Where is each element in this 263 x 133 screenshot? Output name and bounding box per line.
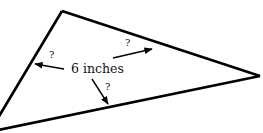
- arrow-to-top-side: [113, 49, 152, 58]
- arrow-to-left-side: [35, 64, 64, 69]
- triangle-diagram: ? ? ? 6 inches: [0, 0, 263, 133]
- unknown-mark-top: ?: [125, 37, 130, 48]
- side-length-label: 6 inches: [71, 61, 124, 76]
- unknown-mark-bottom: ?: [105, 81, 110, 92]
- triangle-shape: [0, 11, 260, 130]
- unknown-mark-left: ?: [49, 49, 54, 60]
